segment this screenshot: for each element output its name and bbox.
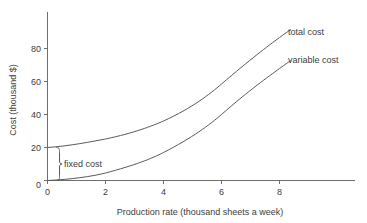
- x-tick-label-2: 2: [103, 187, 108, 197]
- x-axis-title: Production rate (thousand sheets a week): [117, 207, 284, 217]
- x-tick-label-6: 6: [219, 187, 224, 197]
- x-tick-label-0: 0: [45, 187, 50, 197]
- y-tick-label-60: 60: [31, 77, 41, 87]
- variable-cost-label: variable cost: [288, 55, 339, 65]
- x-tick-label-8: 8: [277, 187, 282, 197]
- total-cost-label: total cost: [288, 27, 325, 37]
- chart-screenshot: 0 20 40 60 80 0 2 4 6 8 Cost (thousand $…: [0, 0, 367, 223]
- fixed-cost-label: fixed cost: [64, 159, 103, 169]
- y-tick-label-20: 20: [31, 143, 41, 153]
- y-tick-label-40: 40: [31, 110, 41, 120]
- y-tick-label-80: 80: [31, 44, 41, 54]
- x-tick-label-4: 4: [161, 187, 166, 197]
- y-tick-label-0: 0: [36, 180, 41, 190]
- y-axis-title: Cost (thousand $): [8, 64, 18, 136]
- cost-vs-production-rate-chart: 0 20 40 60 80 0 2 4 6 8 Cost (thousand $…: [0, 0, 367, 223]
